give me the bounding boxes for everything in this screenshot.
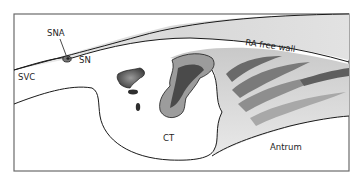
right-atrium-illustration: SNA SN SVC RA free wall CT Antrum [0, 0, 361, 178]
sinus-node-artery-lumen [66, 57, 69, 59]
label-antrum: Antrum [270, 142, 302, 152]
label-sn: SN [79, 55, 91, 65]
diagram-canvas: SNA SN SVC RA free wall CT Antrum [0, 0, 361, 178]
trabecular-dot [136, 103, 140, 111]
label-svc: SVC [18, 72, 35, 82]
label-sna: SNA [47, 28, 65, 38]
trabecular-dot [128, 90, 138, 95]
label-ct: CT [163, 133, 175, 143]
